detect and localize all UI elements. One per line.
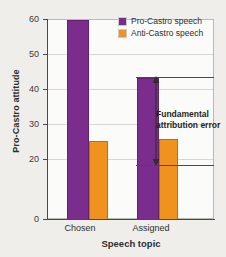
legend-label-pro-castro: Pro-Castro speech: [131, 17, 202, 26]
annotation-text-line-1: Fundamental: [156, 109, 222, 120]
y-tick-label-60: 60: [29, 15, 39, 24]
y-tick-mark-20: [43, 159, 47, 160]
annotation-upper-reference-line: [136, 77, 214, 78]
annotation-text: Fundamental attribution error: [156, 109, 222, 131]
y-tick-mark-60: [43, 19, 47, 20]
x-tick-label-chosen: Chosen: [45, 223, 115, 233]
y-tick-label-30: 30: [29, 120, 39, 129]
bar-chosen-pro-castro: [67, 20, 89, 220]
y-tick-label-50: 50: [29, 50, 39, 59]
legend: Pro-Castro speech Anti-Castro speech: [118, 17, 203, 38]
y-tick-label-20: 20: [29, 155, 39, 164]
y-tick-mark-40: [43, 89, 47, 90]
x-axis-line: [47, 219, 215, 220]
y-axis-line: [47, 19, 48, 220]
legend-item-pro-castro: Pro-Castro speech: [118, 17, 203, 26]
purple-swatch-icon: [118, 17, 127, 26]
orange-swatch-icon: [118, 29, 127, 38]
y-tick-mark-50: [43, 54, 47, 55]
legend-label-anti-castro: Anti-Castro speech: [131, 29, 203, 38]
y-tick-mark-30: [43, 124, 47, 125]
y-axis-title: Pro-Castro attitude: [11, 46, 21, 176]
annotation-lower-reference-line: [136, 165, 214, 166]
legend-item-anti-castro: Anti-Castro speech: [118, 29, 203, 38]
bar-chosen-anti-castro: [89, 141, 108, 220]
y-tick-mark-0: [43, 219, 47, 220]
x-axis-title: Speech topic: [47, 238, 215, 249]
x-tick-label-assigned: Assigned: [116, 223, 186, 233]
annotation-text-line-2: attribution error: [156, 120, 222, 131]
y-tick-label-40: 40: [29, 85, 39, 94]
y-tick-label-0: 0: [34, 215, 39, 224]
bar-chart-figure: 60 50 40 30 20 0 Pro-Castro attitude Cho…: [0, 0, 226, 257]
